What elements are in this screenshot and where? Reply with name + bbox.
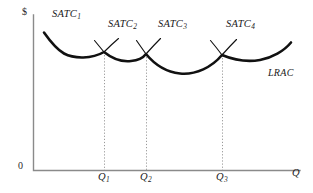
lrac-envelope-curve (44, 33, 291, 74)
satc2-right-tail (146, 39, 161, 55)
tick-label-q1-subscript: 1 (106, 175, 110, 184)
satc3-label-text: SATC (158, 18, 183, 29)
tick-label-q3: Q3 (216, 172, 227, 183)
satc4-label: SATC4 (226, 19, 255, 30)
tick-label-q1: Q1 (98, 172, 109, 183)
y-axis-label: $ (22, 7, 27, 17)
cost-curve-figure: $ 0 Q SATC1 SATC2 SATC3 SATC4 LRAC Q1 Q2… (0, 0, 313, 193)
origin-label: 0 (18, 161, 23, 171)
satc2-label: SATC2 (108, 19, 137, 30)
satc2-label-text: SATC (108, 18, 133, 29)
tick-label-q2: Q2 (140, 172, 151, 183)
satc3-label: SATC3 (158, 19, 187, 30)
satc4-label-subscript: 4 (251, 22, 255, 31)
satc4-left-tail (211, 41, 223, 56)
satc2-left-tail (95, 41, 105, 53)
satc2-label-subscript: 2 (133, 22, 137, 31)
axis-lines (34, 15, 301, 171)
lrac-label: LRAC (268, 68, 294, 78)
tick-label-q2-text: Q (140, 171, 148, 182)
satc4-label-text: SATC (226, 18, 251, 29)
satc3-label-subscript: 3 (183, 22, 187, 31)
satc3-left-tail (137, 41, 147, 55)
tick-label-q1-text: Q (98, 171, 106, 182)
tick-label-q3-subscript: 3 (224, 175, 228, 184)
cost-curve-plot (0, 0, 313, 193)
tick-label-q3-text: Q (216, 171, 224, 182)
satc1-label-subscript: 1 (77, 12, 81, 21)
satc1-label: SATC1 (52, 9, 81, 20)
satc1-label-text: SATC (52, 8, 77, 19)
satc3-right-tail (222, 40, 237, 56)
tick-label-q2-subscript: 2 (148, 175, 152, 184)
satc1-right-tail (104, 39, 119, 53)
x-axis-label: Q (292, 168, 300, 179)
